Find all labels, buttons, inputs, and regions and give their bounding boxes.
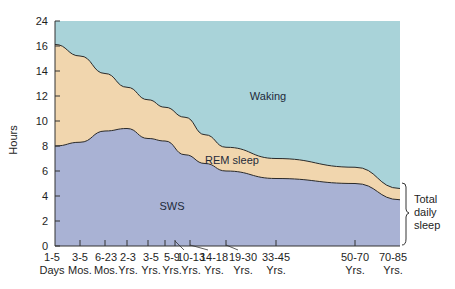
x-tick-label-unit: Yrs.	[345, 264, 365, 276]
y-tick-label: 10	[36, 115, 48, 127]
x-tick-label-unit: Days	[39, 264, 65, 276]
x-tick-label-unit: Yrs.	[162, 264, 182, 276]
x-tick-label-unit: Yrs.	[383, 264, 403, 276]
x-tick-label: 33-45	[262, 251, 290, 263]
label-sws: SWS	[159, 200, 184, 212]
total-sleep-label-1: Total	[414, 193, 437, 205]
x-tick-label-unit: Yrs.	[233, 264, 253, 276]
x-tick-label: 14-18	[200, 251, 228, 263]
y-tick-label: 14	[36, 65, 48, 77]
y-axis-title: Hours	[7, 125, 19, 155]
sleep-stages-chart: 024681012141624 1-5Days3-5Mos.6-23Mos.2-…	[0, 0, 455, 289]
x-tick-label-unit: Yrs.	[118, 264, 138, 276]
y-tick-label: 8	[42, 140, 48, 152]
chart-areas	[55, 21, 400, 246]
x-tick-label-unit: Yrs.	[204, 264, 224, 276]
x-tick-label-unit: Yrs.	[181, 264, 201, 276]
total-sleep-label-3: sleep	[414, 219, 440, 231]
x-tick-label: 3-5	[72, 251, 88, 263]
x-tick-label: 2-3	[120, 251, 136, 263]
y-tick-label: 2	[42, 215, 48, 227]
y-tick-label: 12	[36, 90, 48, 102]
x-tick-label-unit: Yrs.	[141, 264, 161, 276]
x-tick-label: 50-70	[341, 251, 369, 263]
total-sleep-label-2: daily	[414, 206, 437, 218]
y-tick-label: 24	[36, 15, 48, 27]
label-rem-sleep: REM sleep	[205, 154, 259, 166]
label-waking: Waking	[250, 90, 286, 102]
total-sleep-bracket	[402, 183, 409, 245]
x-tick-label: 1-5	[44, 251, 60, 263]
y-tick-label: 6	[42, 165, 48, 177]
x-tick-label: 70-85	[379, 251, 407, 263]
x-tick-label-unit: Mos.	[68, 264, 92, 276]
x-tick-label-unit: Mos.	[94, 264, 118, 276]
x-tick-label-unit: Yrs.	[266, 264, 286, 276]
x-tick-label: 6-23	[95, 251, 117, 263]
y-tick-label: 16	[36, 40, 48, 52]
y-tick-label: 4	[42, 190, 48, 202]
x-tick-label: 19-30	[229, 251, 257, 263]
x-tick-label: 3-5	[143, 251, 159, 263]
